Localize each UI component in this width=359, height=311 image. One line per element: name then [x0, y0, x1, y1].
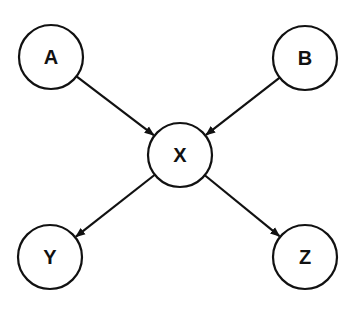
node-y: Y — [18, 225, 82, 289]
node-z: Z — [273, 225, 337, 289]
nodes: ABXYZ — [18, 25, 337, 289]
edge-a-to-x — [76, 76, 153, 135]
edge-x-to-y — [76, 175, 155, 237]
node-a: A — [19, 25, 83, 89]
node-label: B — [298, 47, 312, 69]
node-label: Y — [43, 246, 57, 268]
node-b: B — [273, 26, 337, 90]
diagram-canvas: ABXYZ — [0, 0, 359, 311]
graph-svg: ABXYZ — [0, 0, 359, 311]
node-label: A — [44, 46, 58, 68]
node-label: Z — [299, 246, 311, 268]
node-label: X — [173, 144, 187, 166]
edge-x-to-z — [205, 175, 280, 236]
node-x: X — [148, 123, 212, 187]
edge-b-to-x — [206, 78, 280, 135]
